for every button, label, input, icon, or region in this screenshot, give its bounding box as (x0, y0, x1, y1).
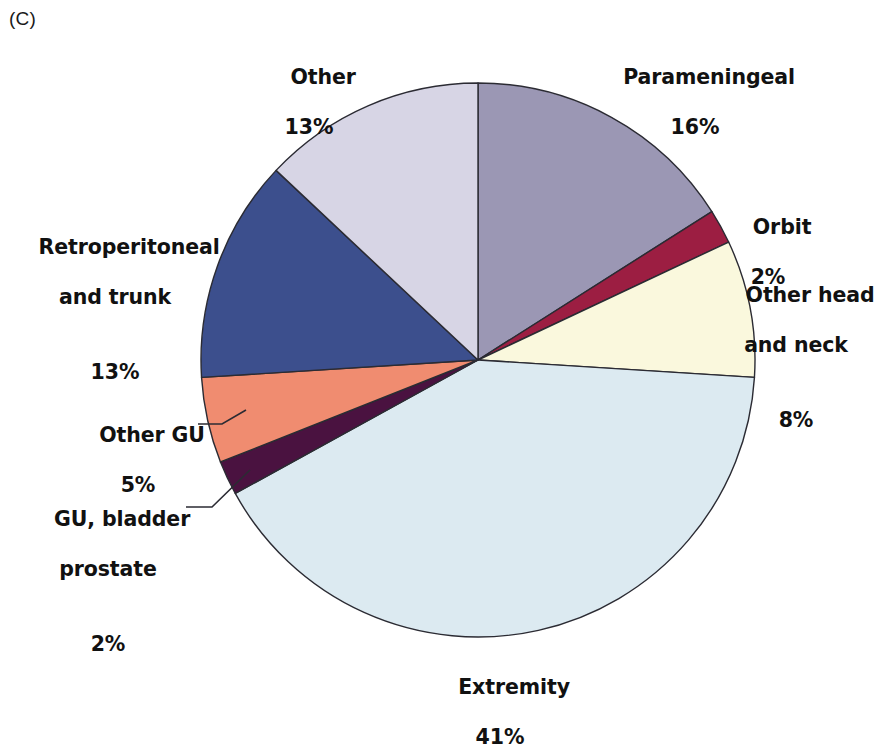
slice-label-parameningeal-text: Parameningeal (623, 65, 795, 89)
slice-label-orbit-text: Orbit (753, 215, 812, 239)
slice-label-retro-pct: 13% (4, 360, 226, 385)
slice-label-retro-line2: and trunk (4, 285, 226, 310)
slice-label-gu-bladder-prostate: GU, bladder prostate 2% (17, 482, 199, 707)
slice-label-other-head-and-neck: Other head and neck 8% (706, 258, 886, 483)
slice-label-retro-line1: Retroperitoneal (39, 235, 220, 259)
slice-label-gu-bladder-line1: GU, bladder (54, 507, 190, 531)
slice-label-gu-bladder-line2: prostate (17, 557, 199, 582)
slice-label-parameningeal: Parameningeal 16% (585, 40, 805, 190)
slice-label-other: Other 13% (253, 40, 365, 190)
slice-label-other-gu-text: Other GU (99, 423, 205, 447)
slice-label-gu-bladder-pct: 2% (17, 632, 199, 657)
slice-label-extremity-pct: 41% (410, 725, 590, 748)
slice-label-parameningeal-pct: 16% (585, 115, 805, 140)
slice-label-other-head-line2: and neck (706, 333, 886, 358)
slice-label-other-text: Other (290, 65, 355, 89)
slice-label-extremity: Extremity 41% (410, 650, 590, 748)
slice-label-extremity-text: Extremity (458, 675, 570, 699)
slice-label-other-head-pct: 8% (706, 408, 886, 433)
slice-label-other-head-line1: Other head (746, 283, 875, 307)
slice-label-other-pct: 13% (253, 115, 365, 140)
